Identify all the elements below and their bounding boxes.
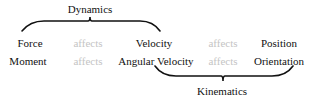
- orientation-node: Orientation: [254, 55, 304, 67]
- affects-relation: affects: [208, 55, 237, 67]
- affects-relation: affects: [73, 55, 102, 67]
- braces-layer: [0, 0, 318, 102]
- affects-relation: affects: [208, 37, 237, 49]
- kinematics-label: Kinematics: [197, 85, 247, 97]
- force-node: Force: [17, 37, 42, 49]
- moment-node: Moment: [9, 55, 46, 67]
- dynamics-brace: [22, 17, 160, 31]
- angular-velocity-node: Angular Velocity: [118, 55, 193, 67]
- dynamics-label: Dynamics: [68, 3, 113, 15]
- kinematics-brace: [155, 66, 293, 81]
- position-node: Position: [261, 37, 297, 49]
- velocity-node: Velocity: [136, 37, 173, 49]
- dynamics-kinematics-diagram: Dynamics Kinematics Force affects Veloci…: [0, 0, 318, 102]
- affects-relation: affects: [73, 37, 102, 49]
